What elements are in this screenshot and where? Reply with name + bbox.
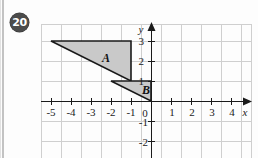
- coordinate-grid-svg: -5 -4 -3 -2 -1 0 1 2 3 4 3 2 1 -1 -2 y: [0, 0, 258, 158]
- x-tick-label: 4: [229, 106, 235, 118]
- y-tick-label: 3: [139, 35, 145, 47]
- x-tick-label: 2: [189, 106, 195, 118]
- x-tick-label: -1: [126, 106, 135, 118]
- shape-label-b: B: [141, 83, 150, 97]
- y-axis-label: y: [138, 23, 144, 35]
- shape-label-a: A: [101, 51, 110, 65]
- x-tick-label: -2: [106, 106, 115, 118]
- y-tick-label: -1: [139, 116, 148, 128]
- x-axis-arrow-icon: [243, 98, 252, 106]
- x-tick-label: 3: [209, 106, 215, 118]
- x-tick-label: 1: [169, 106, 175, 118]
- x-axis-label: x: [242, 106, 248, 118]
- x-tick-label: -3: [86, 106, 96, 118]
- y-axis-arrow-icon: [148, 22, 156, 31]
- worksheet-problem-panel: 20: [0, 0, 258, 158]
- y-tick-label: -2: [139, 136, 148, 148]
- coordinate-plane-figure: -5 -4 -3 -2 -1 0 1 2 3 4 3 2 1 -1 -2 y: [0, 0, 258, 158]
- y-tick-label: 2: [139, 55, 145, 67]
- x-tick-label: -4: [66, 106, 76, 118]
- x-tick-label: -5: [46, 106, 56, 118]
